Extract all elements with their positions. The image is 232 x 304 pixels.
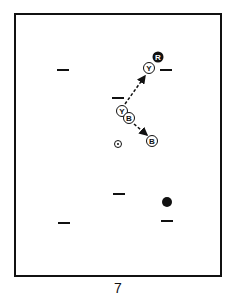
arrow-b-path	[134, 124, 147, 135]
target-icon	[115, 141, 122, 148]
diagram-canvas: R Y Y B B 7	[0, 0, 232, 304]
player-y-top: Y	[144, 63, 155, 74]
svg-text:B: B	[149, 137, 155, 146]
svg-text:Y: Y	[146, 64, 152, 73]
figure-caption: 7	[114, 280, 122, 296]
movement-arrows	[125, 76, 147, 135]
player-r: R	[153, 52, 164, 63]
svg-text:R: R	[155, 53, 161, 62]
ball-icon	[162, 197, 172, 207]
arrow-y-path	[125, 76, 145, 104]
player-b-lower: B	[124, 113, 135, 124]
player-b-right: B	[147, 136, 158, 147]
svg-text:B: B	[126, 114, 132, 123]
